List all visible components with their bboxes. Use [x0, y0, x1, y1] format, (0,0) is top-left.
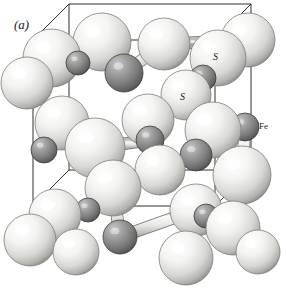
atom-fe: [103, 220, 137, 254]
atom-s: [213, 146, 271, 204]
atom-s: [159, 231, 213, 285]
sulfur-label-lower: S: [180, 92, 185, 102]
sulfur-label-upper: S: [213, 52, 218, 62]
atom-s: [1, 57, 53, 109]
crystal-structure-diagram: [0, 0, 287, 294]
figure-panel: (a)SSFe: [0, 0, 287, 294]
atom-fe: [66, 51, 90, 75]
atom-fe: [105, 54, 143, 92]
panel-label: (a): [14, 18, 29, 31]
atom-s: [135, 145, 185, 195]
iron-label: Fe: [259, 122, 268, 131]
atom-fe: [31, 137, 57, 163]
atom-layer: [1, 13, 280, 285]
atom-s: [138, 18, 190, 70]
atom-s: [236, 230, 280, 274]
atom-s: [4, 214, 56, 266]
atom-s: [53, 229, 99, 275]
